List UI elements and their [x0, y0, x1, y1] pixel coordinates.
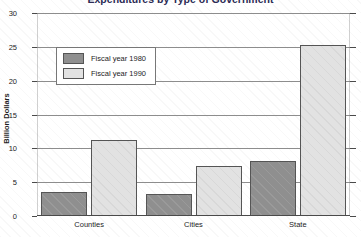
y-tick-mark-right	[350, 148, 356, 149]
x-tick-label: State	[246, 220, 350, 229]
y-tick-label: 20	[0, 77, 17, 86]
y-tick-mark-right	[350, 81, 356, 82]
legend-swatch-icon	[63, 68, 84, 79]
legend-swatch-icon	[63, 53, 84, 64]
bar-state-1	[300, 45, 346, 216]
gridline	[37, 13, 350, 14]
bar-state-0	[250, 161, 296, 216]
legend-label: Fiscal year 1980	[91, 54, 146, 63]
y-tick-label: 30	[0, 9, 17, 18]
chart-figure: Expenditures by Type of Government Billi…	[0, 0, 361, 237]
chart-legend: Fiscal year 1980Fiscal year 1990	[56, 47, 156, 85]
bar-cities-1	[196, 166, 242, 216]
y-tick-mark-right	[350, 216, 356, 217]
bar-counties-0	[41, 192, 87, 216]
y-tick-mark	[32, 216, 37, 217]
plot-area	[37, 13, 350, 216]
y-tick-label: 25	[0, 43, 17, 52]
legend-item: Fiscal year 1990	[63, 68, 146, 79]
axis-right	[349, 13, 350, 216]
y-tick-mark-right	[350, 13, 356, 14]
y-tick-mark-right	[350, 115, 356, 116]
x-tick-label: Counties	[37, 220, 141, 229]
legend-item: Fiscal year 1980	[63, 53, 146, 64]
y-tick-mark-right	[350, 47, 356, 48]
x-tick-label: Cities	[141, 220, 245, 229]
axis-left	[37, 13, 38, 216]
y-tick-label: 5	[0, 178, 17, 187]
y-tick-label: 0	[0, 212, 17, 221]
y-tick-label: 10	[0, 144, 17, 153]
legend-label: Fiscal year 1990	[91, 69, 146, 78]
bar-counties-1	[91, 140, 137, 216]
y-tick-label: 15	[0, 111, 17, 120]
bar-cities-0	[146, 194, 192, 216]
chart-title: Expenditures by Type of Government	[0, 0, 361, 6]
y-tick-mark-right	[350, 182, 356, 183]
axis-bottom	[37, 215, 350, 217]
